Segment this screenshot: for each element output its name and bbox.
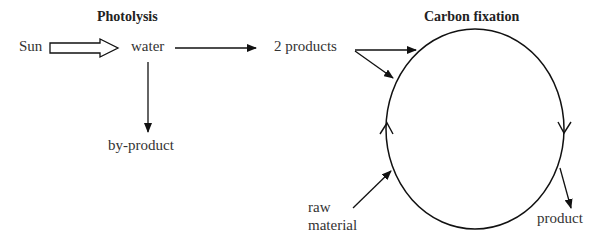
product-label: product	[537, 210, 583, 227]
two-products-label: 2 products	[274, 38, 337, 55]
arrow-cycle-to-product	[560, 168, 571, 208]
by-product-label: by-product	[108, 137, 174, 154]
carbon-fixation-title: Carbon fixation	[424, 9, 519, 25]
raw-material-label-line1: raw	[308, 199, 331, 216]
photolysis-title: Photolysis	[97, 9, 158, 25]
sun-hollow-arrow	[50, 39, 118, 57]
arrow-raw-material-to-cycle	[353, 171, 391, 208]
sun-label: Sun	[19, 38, 42, 55]
carbon-fixation-cycle	[386, 29, 564, 229]
water-label: water	[131, 38, 164, 55]
diagram-canvas	[0, 0, 607, 241]
raw-material-label-line2: material	[308, 217, 357, 234]
arrow-products-to-cycle-2	[355, 51, 393, 78]
